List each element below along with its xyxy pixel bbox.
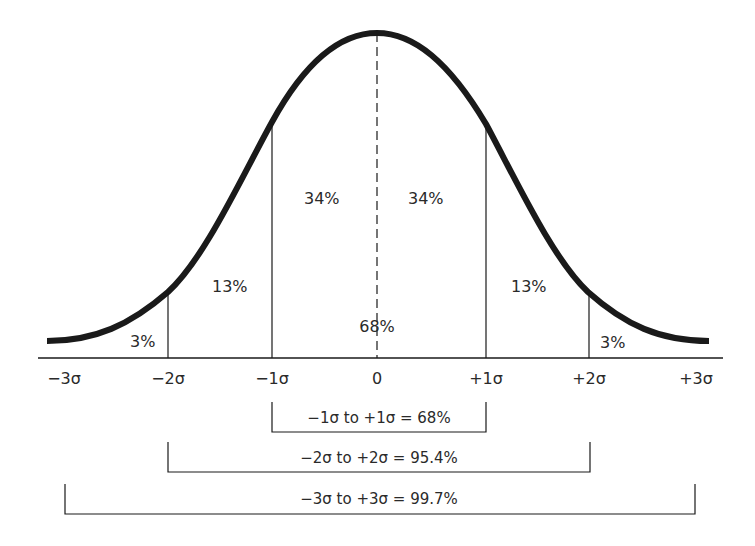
bell-curve [47, 33, 709, 341]
tick-plus-3-sigma: +3σ [679, 369, 713, 388]
center-label: 68% [359, 317, 395, 336]
tick-minus-2-sigma: −2σ [151, 369, 185, 388]
region-label-minus2-minus1: 13% [212, 277, 248, 296]
normal-distribution-chart: 3% 13% 34% 34% 13% 3% 68% −3σ −2σ −1σ 0 … [0, 0, 755, 546]
region-label-0-plus1: 34% [408, 189, 444, 208]
region-label-minus1-0: 34% [304, 189, 340, 208]
tick-minus-3-sigma: −3σ [47, 369, 81, 388]
range-label-1-sigma: −1σ to +1σ = 68% [307, 409, 450, 427]
range-label-2-sigma: −2σ to +2σ = 95.4% [300, 449, 458, 467]
tick-plus-1-sigma: +1σ [469, 369, 503, 388]
tick-zero: 0 [372, 369, 382, 388]
tick-plus-2-sigma: +2σ [572, 369, 606, 388]
tick-minus-1-sigma: −1σ [255, 369, 289, 388]
region-label-plus2-plus3: 3% [600, 333, 625, 352]
region-label-plus1-plus2: 13% [511, 277, 547, 296]
region-label-minus3-minus2: 3% [130, 332, 155, 351]
range-label-3-sigma: −3σ to +3σ = 99.7% [300, 490, 458, 508]
